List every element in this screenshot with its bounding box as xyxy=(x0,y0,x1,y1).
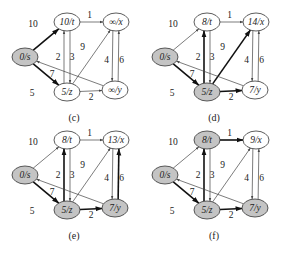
node-z: 5/z xyxy=(194,83,220,101)
node-z: 5/z xyxy=(194,201,220,219)
node-s: 0/s xyxy=(12,166,38,184)
edge-weight-label: 4 xyxy=(104,173,109,183)
node-label: 14/x xyxy=(248,17,265,27)
edge-weight-label: 5 xyxy=(170,206,175,216)
edge-x-y xyxy=(112,149,113,199)
edge-weight-label: 2 xyxy=(229,210,234,220)
node-label: 10/t xyxy=(60,17,75,27)
node-y: 7/y xyxy=(242,199,268,217)
node-label: 13/x xyxy=(108,135,125,145)
edge-s-t xyxy=(33,29,58,50)
edge-weight-label: 6 xyxy=(119,55,124,65)
edge-weight-label: 2 xyxy=(89,92,94,102)
edge-weight-label: 5 xyxy=(30,206,35,216)
node-label: 0/s xyxy=(19,170,30,180)
panel-caption: (c) xyxy=(68,112,79,124)
node-y: 7/y xyxy=(242,81,268,99)
edge-weight-label: 9 xyxy=(80,160,85,170)
node-label: ∞/x xyxy=(109,17,123,27)
dijkstra-diagram-canvas: 105123946720/s10/t∞/x5/z∞/y(c)1051239467… xyxy=(0,0,285,253)
edge-s-z xyxy=(33,182,58,203)
edge-weight-label: 2 xyxy=(89,210,94,220)
node-label: 5/z xyxy=(201,87,212,97)
edge-x-y xyxy=(252,149,253,199)
edge-weight-label: 9 xyxy=(220,160,225,170)
edge-x-y xyxy=(252,31,253,81)
node-label: 5/z xyxy=(61,205,72,215)
edge-weight-label: 7 xyxy=(50,69,55,79)
edge-s-z xyxy=(173,64,198,85)
edge-s-z xyxy=(33,64,58,85)
node-label: 0/s xyxy=(159,52,170,62)
edge-s-z xyxy=(173,182,198,203)
node-label: 0/s xyxy=(19,52,30,62)
edge-weight-label: 7 xyxy=(190,187,195,197)
edge-weight-label: 2 xyxy=(229,92,234,102)
graph-panel-e: 105123946720/s8/t13/x5/z7/y(e) xyxy=(12,128,129,242)
node-label: 9/x xyxy=(250,135,262,145)
node-t: 10/t xyxy=(54,13,80,31)
panel-caption: (d) xyxy=(208,112,220,124)
node-t: 8/t xyxy=(194,131,220,149)
edge-weight-label: 4 xyxy=(244,55,249,65)
node-x: 13/x xyxy=(103,131,129,149)
edge-weight-label: 3 xyxy=(70,170,75,180)
node-label: 8/t xyxy=(62,135,72,145)
edge-weight-label: 2 xyxy=(196,52,201,62)
edge-weight-label: 3 xyxy=(70,52,75,62)
node-label: 0/s xyxy=(159,170,170,180)
edge-weight-label: 10 xyxy=(168,137,178,147)
edge-weight-label: 10 xyxy=(28,137,38,147)
edge-weight-label: 2 xyxy=(196,170,201,180)
edge-weight-label: 1 xyxy=(87,128,92,138)
edge-weight-label: 4 xyxy=(244,173,249,183)
edge-weight-label: 6 xyxy=(259,55,264,65)
node-y: ∞/y xyxy=(102,81,128,99)
panels-group: 105123946720/s10/t∞/x5/z∞/y(c)1051239467… xyxy=(12,10,269,242)
edge-weight-label: 7 xyxy=(50,187,55,197)
edge-weight-label: 5 xyxy=(170,88,175,98)
node-t: 8/t xyxy=(54,131,80,149)
node-label: 8/t xyxy=(202,135,212,145)
edge-s-t xyxy=(173,147,198,168)
edge-weight-label: 10 xyxy=(168,19,178,29)
graph-panel-d: 105123946720/s8/t14/x5/z7/y(d) xyxy=(152,10,269,124)
edge-weight-label: 9 xyxy=(220,42,225,52)
edge-weight-label: 3 xyxy=(210,52,215,62)
edge-weight-label: 2 xyxy=(56,170,61,180)
node-label: 7/y xyxy=(249,85,261,95)
node-z: 5/z xyxy=(54,201,80,219)
edge-weight-label: 6 xyxy=(259,173,264,183)
node-s: 0/s xyxy=(152,48,178,66)
panel-caption: (e) xyxy=(68,230,79,242)
graph-panel-f: 105123946720/s8/t9/x5/z7/y(f) xyxy=(152,128,269,242)
edge-s-t xyxy=(33,147,58,168)
node-label: 7/y xyxy=(249,203,261,213)
edge-s-t xyxy=(173,29,198,50)
node-label: 5/z xyxy=(201,205,212,215)
node-label: 7/y xyxy=(109,203,121,213)
node-x: 14/x xyxy=(243,13,269,31)
edge-weight-label: 2 xyxy=(56,52,61,62)
node-x: ∞/x xyxy=(103,13,129,31)
node-label: 5/z xyxy=(61,87,72,97)
node-t: 8/t xyxy=(194,13,220,31)
edge-weight-label: 6 xyxy=(119,173,124,183)
edge-weight-label: 4 xyxy=(104,55,109,65)
edge-weight-label: 5 xyxy=(30,88,35,98)
edge-weight-label: 1 xyxy=(227,10,232,20)
node-x: 9/x xyxy=(243,131,269,149)
edge-weight-label: 7 xyxy=(190,69,195,79)
edge-weight-label: 9 xyxy=(80,42,85,52)
node-s: 0/s xyxy=(152,166,178,184)
node-label: 8/t xyxy=(202,17,212,27)
graph-panel-c: 105123946720/s10/t∞/x5/z∞/y(c) xyxy=(12,10,129,124)
node-label: ∞/y xyxy=(108,85,122,95)
node-z: 5/z xyxy=(54,83,80,101)
edge-weight-label: 10 xyxy=(28,19,38,29)
edge-x-y xyxy=(112,31,113,81)
panel-caption: (f) xyxy=(209,230,219,242)
edge-weight-label: 3 xyxy=(210,170,215,180)
node-s: 0/s xyxy=(12,48,38,66)
edge-weight-label: 1 xyxy=(227,128,232,138)
